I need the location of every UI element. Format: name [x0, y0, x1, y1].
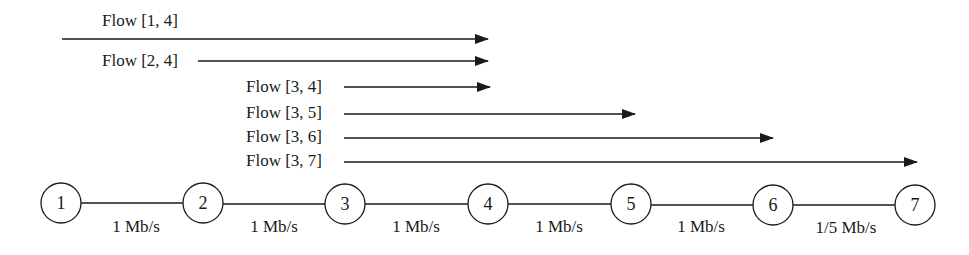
flow-3-5: Flow [3, 5] — [246, 103, 635, 122]
node-4: 4 — [468, 184, 508, 224]
link-capacity-label: 1 Mb/s — [250, 217, 298, 236]
node-1: 1 — [41, 183, 81, 223]
node-6: 6 — [753, 185, 793, 225]
node-label: 5 — [627, 194, 636, 214]
link-capacity-label: 1 Mb/s — [677, 217, 725, 236]
flow-3-4: Flow [3, 4] — [246, 77, 490, 96]
flow-label: Flow [2, 4] — [102, 51, 178, 70]
link-capacity-label: 1 Mb/s — [392, 217, 440, 236]
flow-label: Flow [3, 5] — [246, 103, 322, 122]
node-label: 3 — [341, 194, 350, 214]
link-capacity-label: 1 Mb/s — [535, 217, 583, 236]
node-label: 7 — [911, 195, 920, 215]
flow-label: Flow [3, 6] — [246, 127, 322, 146]
flow-2-4: Flow [2, 4] — [102, 51, 488, 70]
node-7: 7 — [895, 185, 935, 225]
flow-label: Flow [3, 4] — [246, 77, 322, 96]
node-label: 6 — [769, 195, 778, 215]
node-label: 2 — [199, 193, 208, 213]
flow-label: Flow [3, 7] — [246, 151, 322, 170]
node-2: 2 — [183, 183, 223, 223]
node-label: 1 — [57, 193, 66, 213]
flow-1-4: Flow [1, 4] — [62, 11, 488, 39]
link-capacity-label: 1/5 Mb/s — [816, 218, 877, 237]
nodes: 1 2 3 4 5 6 7 — [41, 183, 935, 225]
network-flow-diagram: Flow [1, 4] Flow [2, 4] Flow [3, 4] Flow… — [0, 0, 969, 255]
link-capacity-label: 1 Mb/s — [112, 217, 160, 236]
flow-3-6: Flow [3, 6] — [246, 127, 773, 146]
node-label: 4 — [484, 194, 493, 214]
flow-3-7: Flow [3, 7] — [246, 151, 917, 170]
node-3: 3 — [325, 184, 365, 224]
node-5: 5 — [611, 184, 651, 224]
flow-label: Flow [1, 4] — [102, 11, 178, 30]
